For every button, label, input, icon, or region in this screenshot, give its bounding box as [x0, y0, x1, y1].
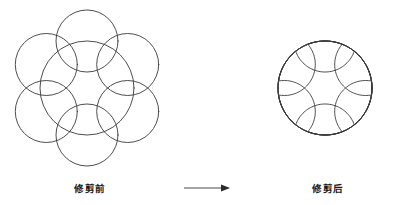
after-outer-arc-2 [278, 41, 372, 135]
after-inner-arc-2 [296, 104, 355, 125]
after-inner-arc-1 [335, 81, 372, 132]
after-outer-arc-6 [371, 81, 372, 95]
transform-arrow-icon [180, 170, 240, 205]
after-outer-arc-5 [278, 41, 372, 135]
after-inner-arc-6 [335, 44, 372, 95]
after-outer-arc-1 [278, 41, 372, 135]
after-figure-caption: 修剪后 [238, 183, 418, 195]
after-inner-arc-4 [279, 44, 316, 95]
before-figure-caption: 修剪前 [0, 183, 180, 195]
arrow-head-icon [221, 185, 230, 192]
after-figure-diagram [238, 0, 418, 180]
after-inner-arc-3 [279, 81, 316, 132]
before-large-circle [40, 41, 134, 135]
arrow-panel [180, 170, 240, 205]
figure-root: 修剪前 修剪后 [0, 0, 418, 205]
before-figure-diagram [0, 0, 180, 180]
after-figure-panel: 修剪后 [238, 0, 418, 205]
before-figure-panel: 修剪前 [0, 0, 180, 205]
after-inner-arc-5 [296, 51, 355, 72]
after-outer-arc-4 [278, 41, 372, 135]
